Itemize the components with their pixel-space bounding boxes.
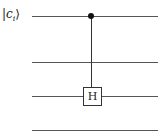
wire-1 — [32, 16, 158, 17]
wire-2 — [32, 62, 158, 63]
control-line — [91, 16, 92, 87]
control-dot — [88, 13, 94, 19]
hadamard-gate: H — [83, 87, 102, 106]
input-label: |ci⟩ — [2, 7, 20, 23]
wire-4 — [32, 130, 158, 131]
